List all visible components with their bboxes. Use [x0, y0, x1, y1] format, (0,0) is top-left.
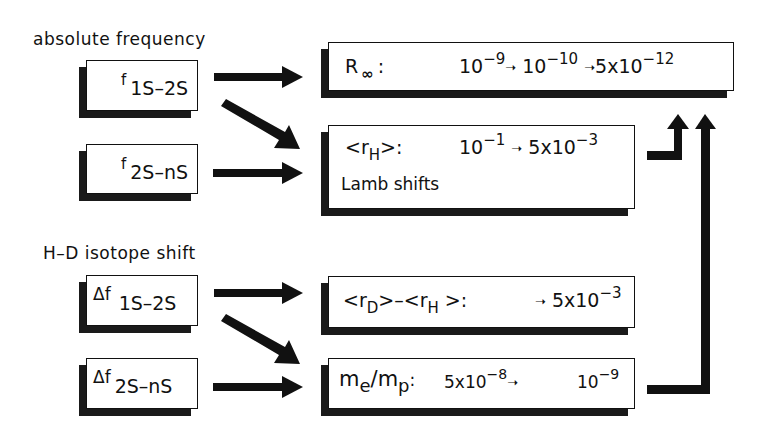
- arrow-df1s2s-to-isotope-radius-icon: [214, 282, 303, 304]
- arrow-proton-radius-to-rydberg-icon: [647, 114, 689, 160]
- arrow-f1s2s-to-proton-radius-icon: [221, 99, 300, 149]
- arrow-f1s2s-to-rydberg-icon: [214, 66, 303, 88]
- arrow-f2sns-to-proton-radius-icon: [213, 162, 303, 184]
- arrow-df2sns-to-mass-ratio-icon: [213, 376, 303, 398]
- flow-arrows: [0, 0, 764, 430]
- arrow-df1s2s-to-mass-ratio-icon: [221, 314, 300, 364]
